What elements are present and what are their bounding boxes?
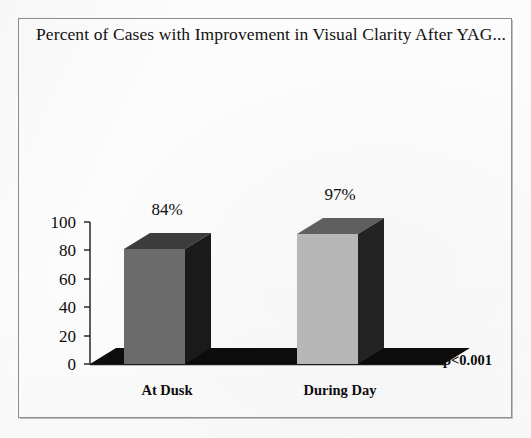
y-tick-label-100: 100 xyxy=(34,214,76,231)
y-tick-label-20: 20 xyxy=(34,328,76,345)
figure-frame xyxy=(18,18,512,418)
y-tick-label-60: 60 xyxy=(34,271,76,288)
bar-value-label-at-dusk: 84% xyxy=(122,201,212,218)
y-tick-label-80: 80 xyxy=(34,242,76,259)
category-label-during-day: During Day xyxy=(270,382,410,398)
p-value-annotation: p<0.001 xyxy=(443,352,492,368)
category-label-at-dusk: At Dusk xyxy=(97,382,237,398)
y-tick-label-0: 0 xyxy=(34,356,76,373)
y-tick-label-40: 40 xyxy=(34,299,76,316)
chart-title: Percent of Cases with Improvement in Vis… xyxy=(36,22,506,46)
bar-value-label-during-day: 97% xyxy=(295,186,385,203)
chart-page: Percent of Cases with Improvement in Vis… xyxy=(0,0,531,438)
